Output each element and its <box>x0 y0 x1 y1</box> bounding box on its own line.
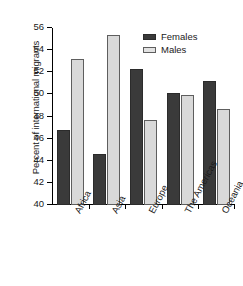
y-tick: 56 <box>47 27 52 28</box>
y-tick: 48 <box>47 116 52 117</box>
bar-females-asia <box>93 154 106 205</box>
y-axis-line <box>52 28 53 205</box>
bar-males-the-americas <box>181 95 194 205</box>
legend-swatch-males <box>143 47 156 53</box>
y-tick-label: 44 <box>33 154 44 165</box>
bar-females-africa <box>57 130 70 205</box>
bar-group <box>93 28 120 205</box>
x-tick <box>234 205 235 209</box>
legend-label: Females <box>161 31 197 42</box>
legend-item: Males <box>143 43 197 56</box>
x-tick <box>89 205 90 209</box>
legend-label: Males <box>161 44 186 55</box>
y-tick: 50 <box>47 93 52 94</box>
y-tick: 42 <box>47 182 52 183</box>
y-tick: 54 <box>47 49 52 50</box>
y-tick-label: 52 <box>33 65 44 76</box>
chart-legend: FemalesMales <box>143 30 197 56</box>
y-tick: 44 <box>47 160 52 161</box>
legend-item: Females <box>143 30 197 43</box>
y-tick: 46 <box>47 138 52 139</box>
x-tick <box>198 205 199 209</box>
y-tick: 52 <box>47 71 52 72</box>
y-tick: 40 <box>47 204 52 205</box>
y-tick-label: 54 <box>33 43 44 54</box>
y-axis-title: Percent of international migrants <box>30 13 41 203</box>
x-tick <box>162 205 163 209</box>
y-tick-label: 42 <box>33 176 44 187</box>
bar-males-asia <box>107 35 120 205</box>
y-tick-label: 50 <box>33 87 44 98</box>
bar-females-europe <box>130 69 143 205</box>
x-tick <box>125 205 126 209</box>
bar-chart: Percent of international migrants 404244… <box>0 0 243 286</box>
y-tick-label: 40 <box>33 198 44 209</box>
y-tick-label: 48 <box>33 110 44 121</box>
legend-swatch-females <box>143 34 156 40</box>
bar-males-africa <box>71 59 84 205</box>
y-tick-label: 46 <box>33 132 44 143</box>
bar-group <box>57 28 84 205</box>
y-tick-label: 56 <box>33 21 44 32</box>
